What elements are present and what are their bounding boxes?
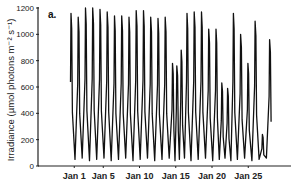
- y-tick-label: 1000: [16, 30, 34, 39]
- y-tick-label: 0: [30, 162, 35, 171]
- x-tick-label: Jan 20: [198, 171, 226, 181]
- y-tick-label: 1200: [16, 4, 34, 13]
- irradiance-series: [71, 8, 272, 161]
- irradiance-line: [71, 8, 272, 161]
- y-axis-title: Irradiance (µmol photons m⁻² s⁻¹): [5, 19, 16, 162]
- x-axis: Jan 1Jan 5Jan 10Jan 15Jan 20Jan 25: [38, 166, 291, 181]
- x-tick-label: Jan 5: [92, 171, 115, 181]
- y-tick-label: 800: [21, 57, 35, 66]
- y-tick-label: 600: [21, 83, 35, 92]
- irradiance-chart: 020040060080010001200 Jan 1Jan 5Jan 10Ja…: [0, 0, 291, 194]
- y-tick-label: 400: [21, 109, 35, 118]
- x-tick-label: Jan 10: [125, 171, 153, 181]
- x-tick-label: Jan 25: [234, 171, 262, 181]
- panel-label: a.: [48, 9, 57, 20]
- x-tick-label: Jan 1: [63, 171, 86, 181]
- y-axis: 020040060080010001200: [16, 4, 39, 171]
- x-tick-label: Jan 15: [162, 171, 190, 181]
- y-tick-label: 200: [21, 136, 35, 145]
